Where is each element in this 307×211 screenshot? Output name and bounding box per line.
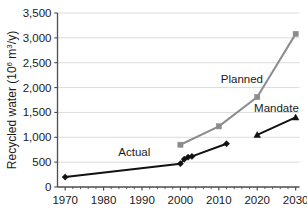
series-marker-planned-3: [293, 31, 298, 36]
y-tick-label-0: 0: [45, 181, 51, 193]
x-axis: [58, 187, 300, 191]
x-tick-label-2030: 2030: [283, 194, 307, 206]
x-tick-label-1990: 1990: [129, 194, 155, 206]
x-tick-label-1970: 1970: [52, 194, 78, 206]
x-tick-label-2020: 2020: [244, 194, 270, 206]
y-axis-title: Recycled water (106 m3/y): [5, 31, 20, 169]
ylabel-part-2: m: [5, 49, 19, 62]
recycled-water-line-chart: 05001,0001,5002,0002,5003,0003,500 19701…: [0, 0, 307, 211]
chart-container: 05001,0001,5002,0002,5003,0003,500 19701…: [0, 0, 307, 211]
annotation-label-mandate: Mandate: [254, 102, 299, 114]
x-axis-tick-labels: 1970198019902000201020202030: [52, 194, 307, 206]
plot-background: [58, 13, 300, 187]
y-tick-label-3000: 3,000: [23, 32, 52, 44]
series-marker-planned-2: [255, 94, 260, 99]
y-tick-label-2000: 2,000: [23, 82, 52, 94]
x-tick-label-2010: 2010: [206, 194, 232, 206]
y-tick-label-1500: 1,500: [23, 106, 52, 118]
y-tick-label-3500: 3,500: [23, 7, 52, 19]
ylabel-part-0: Recycled water (10: [5, 66, 19, 169]
annotation-label-actual: Actual: [118, 146, 150, 158]
ylabel-part-4: /y): [5, 31, 19, 44]
y-axis: [54, 13, 57, 187]
y-tick-label-1000: 1,000: [23, 131, 52, 143]
x-tick-label-1980: 1980: [91, 194, 117, 206]
series-marker-planned-1: [216, 124, 221, 129]
x-tick-label-2000: 2000: [168, 194, 194, 206]
series-marker-planned-0: [178, 142, 183, 147]
annotation-label-planned: Planned: [221, 73, 263, 85]
y-tick-label-2500: 2,500: [23, 57, 52, 69]
y-tick-label-500: 500: [32, 156, 51, 168]
y-axis-tick-labels: 05001,0001,5002,0002,5003,0003,500: [23, 7, 52, 193]
